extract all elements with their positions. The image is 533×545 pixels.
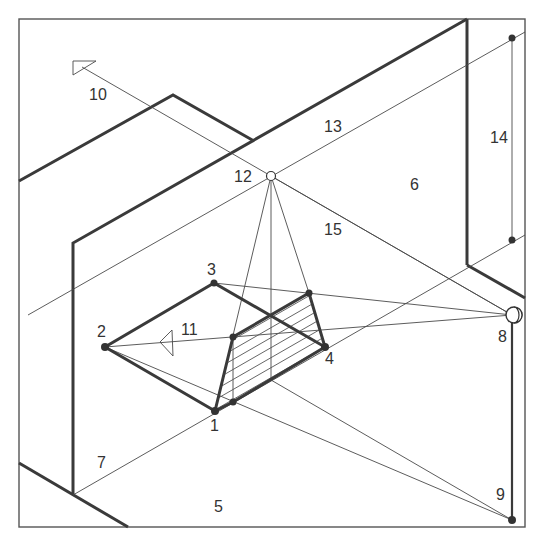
point-1 (211, 407, 219, 415)
label-10: 10 (89, 86, 107, 103)
point-14-top (509, 35, 516, 42)
wall-6-floor-edge (467, 265, 525, 298)
perspective-diagram: 1 2 3 4 5 6 7 8 9 10 11 12 13 14 15 (0, 0, 533, 545)
label-14: 14 (490, 129, 508, 146)
shadow-outline (215, 293, 325, 411)
shadow-point-b (306, 290, 313, 297)
label-11: 11 (181, 321, 198, 338)
label-1: 1 (210, 417, 219, 434)
ray-13 (28, 32, 525, 315)
fan-line-12-c (271, 176, 309, 293)
vanishing-point-12-icon (267, 172, 276, 181)
point-14-bottom (509, 237, 516, 244)
label-6: 6 (410, 176, 419, 193)
ray-8-to-2 (105, 315, 512, 347)
back-wall-edge (19, 95, 254, 181)
label-7: 7 (97, 454, 106, 471)
label-15: 15 (324, 221, 342, 238)
ray-7 (73, 235, 525, 495)
label-2: 2 (97, 323, 106, 340)
label-3: 3 (207, 261, 216, 278)
point-2 (101, 343, 109, 351)
point-9 (508, 516, 516, 524)
label-12: 12 (234, 168, 252, 185)
label-5: 5 (214, 498, 223, 515)
ray-9-from-2 (105, 347, 512, 520)
point-3 (211, 280, 218, 287)
label-9: 9 (496, 486, 505, 503)
label-8: 8 (498, 328, 507, 345)
wall-6-edge (73, 19, 467, 495)
ray-9-from-mid (271, 380, 512, 520)
label-13: 13 (324, 118, 342, 135)
light-source-8-icon (506, 307, 522, 323)
viewer-triangle-11-icon (160, 330, 173, 356)
shadow-point-a (230, 334, 237, 341)
label-4: 4 (325, 350, 334, 367)
shadow-point-d (230, 399, 237, 406)
